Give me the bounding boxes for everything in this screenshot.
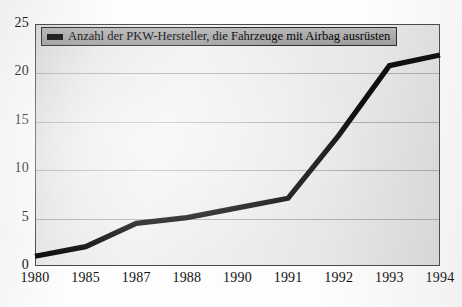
x-tick-label-1993: 1993: [361, 270, 417, 286]
legend-label: Anzahl der PKW-Hersteller, die Fahrzeuge…: [68, 30, 390, 43]
series-line-layer: [35, 24, 440, 266]
series-line-airbag-hersteller: [35, 55, 440, 256]
chart-figure: 0510152025 19801985198719881990199119921…: [0, 0, 462, 307]
y-tick-label-5: 5: [0, 209, 29, 225]
x-tick-label-1980: 1980: [7, 270, 63, 286]
y-tick-label-15: 15: [0, 112, 29, 128]
y-tick-label-20: 20: [0, 63, 29, 79]
x-tick-label-1987: 1987: [108, 270, 164, 286]
y-tick-label-25: 25: [0, 15, 29, 31]
legend-swatch-icon: [47, 34, 63, 40]
x-tick-label-1988: 1988: [159, 270, 215, 286]
y-tick-label-10: 10: [0, 160, 29, 176]
x-tick-label-1985: 1985: [58, 270, 114, 286]
x-tick-label-1994: 1994: [412, 270, 462, 286]
x-tick-label-1992: 1992: [311, 270, 367, 286]
x-axis: 198019851987198819901991199219931994: [35, 270, 440, 294]
chart-legend: Anzahl der PKW-Hersteller, die Fahrzeuge…: [41, 27, 397, 46]
x-tick-label-1991: 1991: [260, 270, 316, 286]
x-tick-label-1990: 1990: [210, 270, 266, 286]
